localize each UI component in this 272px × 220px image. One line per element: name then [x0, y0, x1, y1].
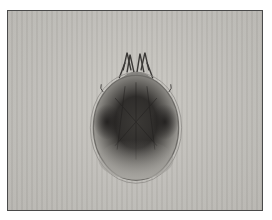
micrograph-frame [7, 10, 263, 211]
mite-specimen [8, 11, 262, 210]
